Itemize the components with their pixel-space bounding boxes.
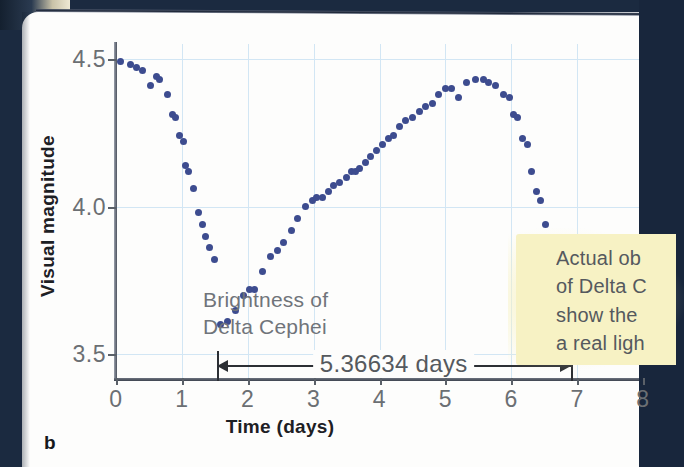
x-tick: [643, 378, 645, 385]
panel-label: b: [44, 432, 56, 454]
period-label: 5.36634 days: [313, 350, 475, 378]
inplot-caption-line-1: Brightness of: [203, 286, 328, 313]
callout-line-1: Actual ob: [556, 244, 676, 272]
callout-line-4: a real ligh: [556, 329, 676, 357]
callout-text: Actual ob of Delta C show the a real lig…: [556, 244, 676, 358]
callout-line-3: show the: [556, 301, 676, 329]
arrow-left-icon: [217, 360, 228, 372]
inplot-caption-line-2: Delta Cephei: [203, 313, 328, 340]
callout-line-2: of Delta C: [556, 272, 676, 300]
inplot-caption: Brightness of Delta Cephei: [203, 286, 328, 341]
